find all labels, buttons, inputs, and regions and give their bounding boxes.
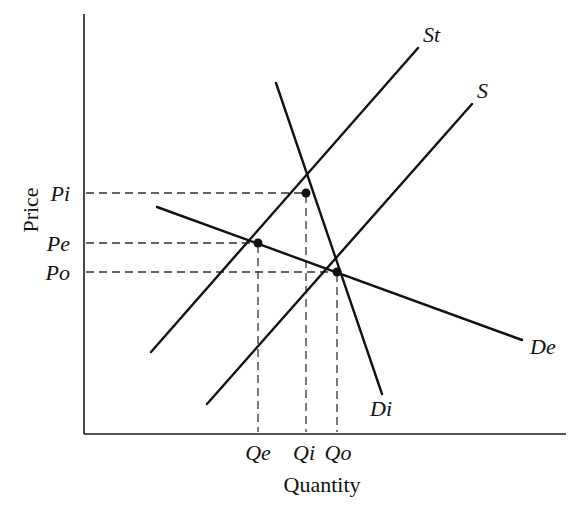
curve-s bbox=[207, 104, 472, 404]
quantity-label-qo: Qo bbox=[325, 440, 352, 465]
quantity-label-qi: Qi bbox=[293, 440, 315, 465]
price-label-pi: Pi bbox=[49, 181, 70, 206]
curve-label-de: De bbox=[529, 334, 556, 359]
x-axis-title: Quantity bbox=[284, 472, 361, 497]
curve-di bbox=[276, 83, 382, 394]
curve-label-st: St bbox=[423, 22, 441, 47]
price-label-pe: Pe bbox=[46, 231, 70, 256]
y-axis-title: Price bbox=[18, 187, 43, 232]
curve-label-s: S bbox=[477, 78, 488, 103]
equilibrium-point-elastic bbox=[254, 239, 263, 248]
quantity-label-qe: Qe bbox=[245, 440, 271, 465]
price-label-po: Po bbox=[45, 260, 70, 285]
supply-demand-diagram: Pi Pe Po Qe Qi Qo St S Di De Price Quant… bbox=[0, 0, 578, 518]
curve-label-di: Di bbox=[369, 396, 392, 421]
curve-st bbox=[151, 48, 418, 352]
equilibrium-point-original bbox=[333, 268, 342, 277]
guide-lines bbox=[86, 193, 337, 432]
equilibrium-point-inelastic bbox=[302, 189, 311, 198]
